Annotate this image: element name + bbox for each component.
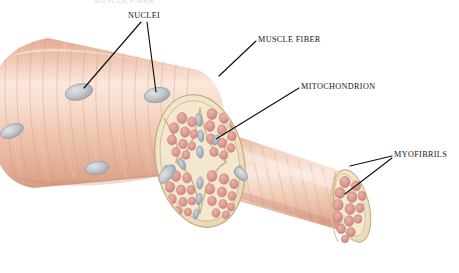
label-muscle-fiber: MUSCLE FIBER [258,36,321,44]
leader-muscle-fiber [219,41,256,76]
leader-myofibrils-upper [350,156,392,166]
cropped-top-caption: MUSCLE FIBER [93,0,154,5]
label-nuclei: NUCLEI [128,12,160,20]
label-mitochondrion: MITOCHONDRION [301,83,375,91]
diagram-stage: MUSCLE FIBER NUCLEI MUSCLE FIBER MITOCHO… [0,0,459,273]
leader-mitochondrion [216,88,299,139]
myofibril-cut-face [327,166,378,246]
label-myofibrils: MYOFIBRILS [394,151,447,159]
muscle-fiber-illustration [0,0,459,273]
